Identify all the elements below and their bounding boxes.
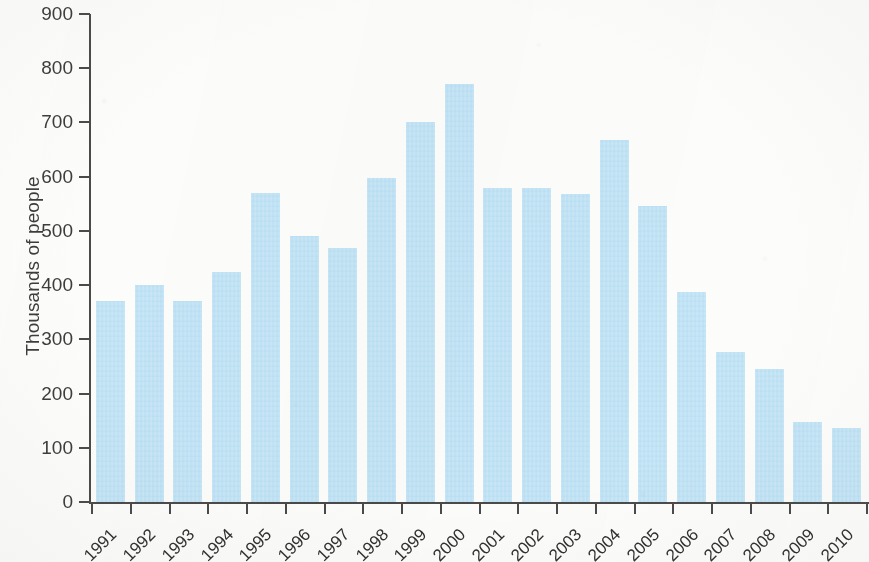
x-axis-tick: [866, 503, 868, 514]
bar: [328, 248, 357, 502]
x-axis-tick: [246, 503, 248, 514]
y-axis-tick: [79, 67, 90, 69]
y-axis-tick: [79, 338, 90, 340]
y-axis-tick-label: 700: [17, 111, 73, 133]
bar: [716, 352, 745, 502]
y-axis-tick: [79, 13, 90, 15]
y-axis-tick: [79, 501, 90, 503]
x-axis-tick: [91, 503, 93, 514]
y-axis-tick-label: 400: [17, 274, 73, 296]
x-axis-tick: [517, 503, 519, 514]
bar: [96, 301, 125, 502]
x-axis-tick: [401, 503, 403, 514]
x-axis-tick: [672, 503, 674, 514]
y-axis-tick-label: 900: [17, 3, 73, 25]
x-axis-tick: [130, 503, 132, 514]
x-axis-tick: [711, 503, 713, 514]
x-axis-tick: [595, 503, 597, 514]
y-axis-tick: [79, 447, 90, 449]
y-axis-tick-label: 600: [17, 166, 73, 188]
x-axis-tick: [827, 503, 829, 514]
bar: [638, 206, 667, 502]
y-axis-tick-label: 500: [17, 220, 73, 242]
x-axis-tick: [556, 503, 558, 514]
bar: [483, 188, 512, 502]
x-axis-tick: [362, 503, 364, 514]
bar: [561, 194, 590, 502]
bar: [212, 272, 241, 502]
y-axis-line: [89, 14, 91, 503]
bar: [406, 122, 435, 502]
bar: [522, 188, 551, 502]
bar-chart: Thousands of people 01002003004005006007…: [0, 0, 869, 562]
x-axis-tick: [207, 503, 209, 514]
bar: [135, 285, 164, 502]
y-axis-tick-label: 0: [17, 491, 73, 513]
x-axis-tick: [285, 503, 287, 514]
bar: [677, 292, 706, 502]
x-axis-tick: [440, 503, 442, 514]
y-axis-tick: [79, 284, 90, 286]
bar: [173, 301, 202, 502]
x-axis-tick: [634, 503, 636, 514]
x-axis-tick: [789, 503, 791, 514]
y-axis-tick-label: 800: [17, 57, 73, 79]
bar: [755, 369, 784, 502]
y-axis-tick: [79, 176, 90, 178]
bar: [251, 193, 280, 502]
y-axis-tick-label: 300: [17, 328, 73, 350]
bar: [290, 236, 319, 502]
y-axis-tick: [79, 121, 90, 123]
x-axis-tick: [169, 503, 171, 514]
y-axis-tick: [79, 393, 90, 395]
x-axis-tick: [479, 503, 481, 514]
y-axis-tick-label: 100: [17, 437, 73, 459]
bar: [832, 428, 861, 502]
bar: [367, 178, 396, 502]
y-axis-tick-label: 200: [17, 383, 73, 405]
y-axis-tick: [79, 230, 90, 232]
bar: [793, 422, 822, 502]
bar: [600, 140, 629, 502]
x-axis-tick: [750, 503, 752, 514]
x-axis-tick: [324, 503, 326, 514]
bar: [445, 84, 474, 502]
